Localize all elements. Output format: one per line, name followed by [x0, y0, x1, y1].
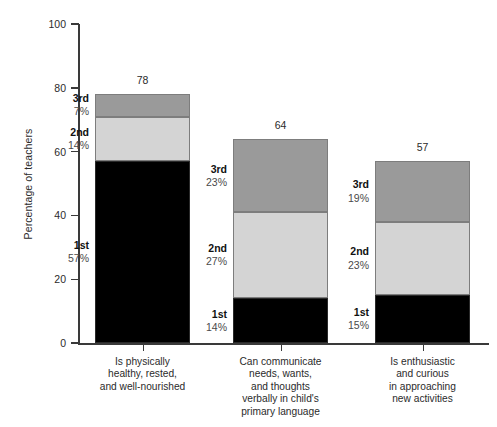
segment-percent-label: 23% — [175, 176, 227, 189]
y-tick-mark — [71, 215, 79, 217]
segment-annotation-3rd: 3rd23% — [175, 163, 227, 189]
segment-rank-label: 2nd — [175, 242, 227, 255]
segment-rank-label: 2nd — [37, 126, 89, 139]
bar-segment-2nd[interactable] — [375, 222, 470, 295]
bar-column[interactable] — [95, 94, 190, 343]
segment-rank-label: 1st — [317, 306, 369, 319]
segment-rank-label: 3rd — [317, 178, 369, 191]
bar-segment-3rd[interactable] — [233, 139, 328, 212]
bar-segment-2nd[interactable] — [95, 117, 190, 162]
x-category-label-line: primary language — [201, 406, 361, 418]
x-category-label-line: needs, wants, — [201, 368, 361, 380]
segment-annotation-1st: 1st15% — [317, 306, 369, 332]
bar-segment-1st[interactable] — [233, 298, 328, 343]
segment-percent-label: 23% — [317, 259, 369, 272]
x-tick-mark — [281, 344, 283, 351]
segment-annotation-1st: 1st57% — [37, 239, 89, 265]
x-category-label-line: Is enthusiastic — [343, 356, 497, 368]
x-category-label-line: Is physically — [63, 356, 223, 368]
y-tick-label: 0 — [22, 338, 66, 349]
bar-segment-2nd[interactable] — [233, 212, 328, 298]
y-tick-mark — [71, 279, 79, 281]
bar-column[interactable] — [375, 161, 470, 343]
bar-total-label: 57 — [375, 142, 470, 153]
segment-annotation-3rd: 3rd19% — [317, 178, 369, 204]
stacked-bar-chart: Percentage of teachers 100806040200 3rd7… — [0, 0, 497, 427]
segment-rank-label: 1st — [175, 308, 227, 321]
y-tick-label: 40 — [22, 210, 66, 221]
segment-percent-label: 27% — [175, 255, 227, 268]
bar-segment-1st[interactable] — [375, 295, 470, 343]
x-category-label: Can communicateneeds, wants,and thoughts… — [201, 356, 361, 418]
segment-percent-label: 14% — [37, 139, 89, 152]
x-category-label-line: and well-nourished — [63, 381, 223, 393]
y-tick-label: 100 — [22, 19, 66, 30]
segment-rank-label: 3rd — [175, 163, 227, 176]
x-category-label-line: in approaching — [343, 381, 497, 393]
y-tick-mark — [71, 342, 79, 344]
segment-percent-label: 19% — [317, 192, 369, 205]
y-tick-mark — [71, 87, 79, 89]
x-category-label: Is enthusiasticand curiousin approaching… — [343, 356, 497, 406]
x-category-label-line: and curious — [343, 368, 497, 380]
x-axis-line — [78, 343, 489, 345]
x-category-label-line: and thoughts — [201, 381, 361, 393]
y-axis-line — [78, 24, 80, 344]
x-category-label-line: new activities — [343, 393, 497, 405]
segment-percent-label: 14% — [175, 321, 227, 334]
segment-annotation-2nd: 2nd23% — [317, 245, 369, 271]
y-tick-mark — [71, 23, 79, 25]
segment-annotation-1st: 1st14% — [175, 308, 227, 334]
segment-percent-label: 15% — [317, 319, 369, 332]
x-category-label-line: healthy, rested, — [63, 368, 223, 380]
bar-segment-3rd[interactable] — [375, 161, 470, 222]
x-category-label-line: Can communicate — [201, 356, 361, 368]
x-tick-mark — [143, 344, 145, 351]
bar-segment-3rd[interactable] — [95, 94, 190, 116]
y-tick-label: 20 — [22, 274, 66, 285]
segment-percent-label: 7% — [37, 105, 89, 118]
x-category-label: Is physicallyhealthy, rested,and well-no… — [63, 356, 223, 393]
y-axis-title: Percentage of teachers — [22, 94, 34, 274]
bar-total-label: 78 — [95, 75, 190, 86]
segment-rank-label: 2nd — [317, 245, 369, 258]
segment-rank-label: 3rd — [37, 92, 89, 105]
segment-percent-label: 57% — [37, 252, 89, 265]
segment-annotation-2nd: 2nd27% — [175, 242, 227, 268]
page-bleed-artifact — [30, 421, 470, 425]
x-tick-mark — [423, 344, 425, 351]
segment-annotation-3rd: 3rd7% — [37, 92, 89, 118]
segment-rank-label: 1st — [37, 239, 89, 252]
bar-column[interactable] — [233, 139, 328, 343]
bar-total-label: 64 — [233, 120, 328, 131]
segment-annotation-2nd: 2nd14% — [37, 126, 89, 152]
x-category-label-line: verbally in child's — [201, 393, 361, 405]
